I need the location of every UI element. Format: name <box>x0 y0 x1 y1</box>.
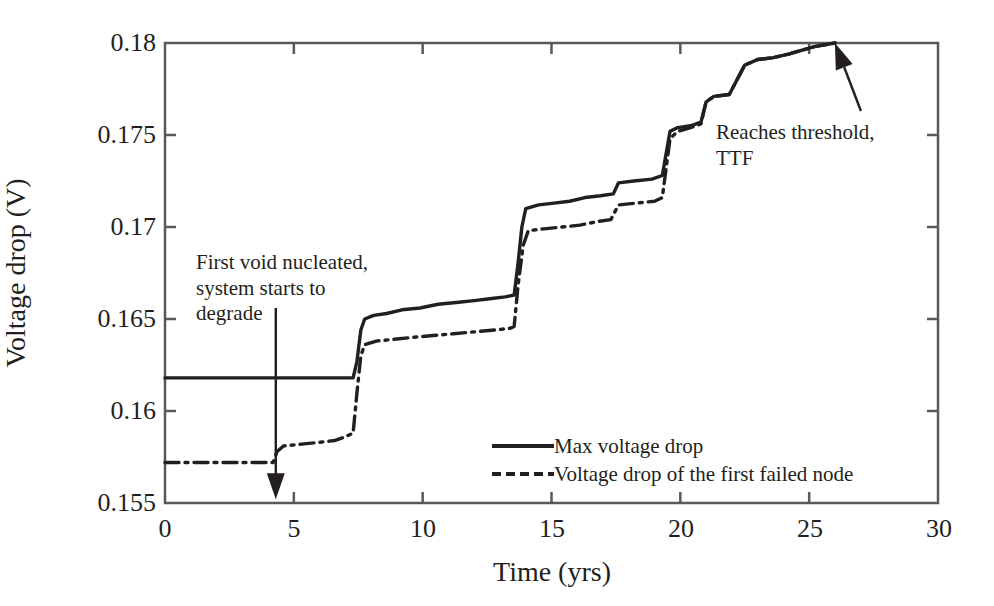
legend-line-dashed-icon <box>492 467 554 481</box>
annotation-reaches-threshold: Reaches threshold, TTF <box>716 120 875 171</box>
ytick-label-5: 0.155 <box>0 490 156 516</box>
legend-label-first-failed-node: Voltage drop of the first failed node <box>554 462 853 487</box>
xtick-label-1: 5 <box>288 516 301 542</box>
ytick-label-4: 0.16 <box>0 398 156 424</box>
legend-item-max-voltage-drop: Max voltage drop <box>492 432 853 460</box>
xtick-label-4: 20 <box>668 516 694 542</box>
legend-item-first-failed-node: Voltage drop of the first failed node <box>492 460 853 488</box>
xtick-label-6: 30 <box>926 516 952 542</box>
chart-legend: Max voltage drop Voltage drop of the fir… <box>492 432 853 488</box>
x-axis-label: Time (yrs) <box>493 556 611 588</box>
ytick-label-0: 0.18 <box>0 30 156 56</box>
xtick-label-3: 15 <box>539 516 565 542</box>
chart-figure: 0.18 0.175 0.17 0.165 0.16 0.155 0 5 10 … <box>0 0 994 606</box>
xtick-label-2: 10 <box>410 516 436 542</box>
legend-line-solid-icon <box>492 439 554 453</box>
xtick-label-5: 25 <box>797 516 823 542</box>
xtick-label-0: 0 <box>159 516 172 542</box>
y-axis-label: Voltage drop (V) <box>0 178 32 367</box>
ytick-label-1: 0.175 <box>0 122 156 148</box>
annotation-first-void-nucleated: First void nucleated, system starts to d… <box>196 250 368 327</box>
legend-label-max-voltage-drop: Max voltage drop <box>554 434 703 459</box>
